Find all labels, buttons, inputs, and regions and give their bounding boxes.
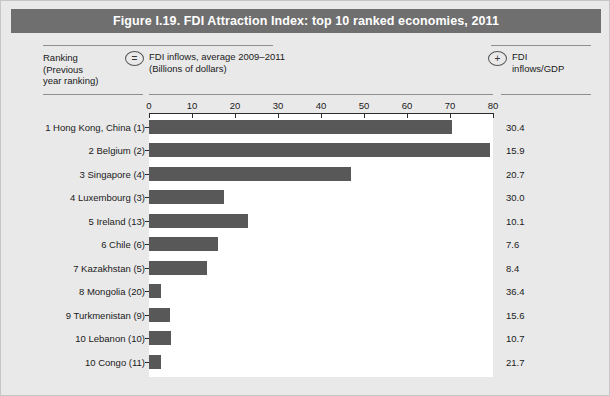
x-axis-tick-label: 30 <box>273 100 284 111</box>
x-axis-tick <box>364 114 365 118</box>
category-label: 6 Chile (6) <box>15 239 145 250</box>
gdp-value: 15.9 <box>506 145 525 156</box>
x-axis-tick-label: 80 <box>488 100 499 111</box>
category-label: 10 Lebanon (10) <box>15 333 145 344</box>
x-axis-tick-label: 10 <box>187 100 198 111</box>
plus-symbol-icon: + <box>488 51 507 66</box>
x-axis-tick-label: 40 <box>316 100 327 111</box>
x-axis-tick-label: 20 <box>230 100 241 111</box>
bar <box>149 167 351 181</box>
gdp-value: 20.7 <box>506 169 525 180</box>
x-axis-tick <box>450 114 451 118</box>
category-label: 8 Mongolia (20) <box>15 286 145 297</box>
x-axis-tick <box>407 114 408 118</box>
gdp-value: 10.7 <box>506 333 525 344</box>
x-axis-tick-label: 60 <box>402 100 413 111</box>
category-label: 9 Turkmenistan (9) <box>15 310 145 321</box>
fdi-inflows-legend-label: FDI inflows, average 2009–2011 (Billions… <box>149 51 399 75</box>
bar <box>149 308 170 322</box>
category-label: 5 Ireland (13) <box>15 216 145 227</box>
gdp-value: 30.0 <box>506 192 525 203</box>
gdp-value: 36.4 <box>506 286 525 297</box>
bar <box>149 190 224 204</box>
x-axis-tick-label: 70 <box>445 100 456 111</box>
category-label: 3 Singapore (4) <box>15 169 145 180</box>
fdi-gdp-legend-line1: FDI <box>512 51 592 63</box>
gdp-value: 21.7 <box>506 357 525 368</box>
x-axis-tick <box>235 114 236 118</box>
bar <box>149 331 171 345</box>
gdp-value: 7.6 <box>506 239 519 250</box>
fdi-inflows-legend-line1: FDI inflows, average 2009–2011 <box>149 51 399 63</box>
bar <box>149 355 161 369</box>
gdp-value: 15.6 <box>506 310 525 321</box>
gdp-value: 10.1 <box>506 216 525 227</box>
figure-container: Figure I.19. FDI Attraction Index: top 1… <box>0 0 610 396</box>
bar <box>149 143 490 157</box>
legend-rule-bottom-mid <box>149 94 493 95</box>
category-labels: 1 Hong Kong, China (1)2 Belgium (2)3 Sin… <box>9 1 145 396</box>
fdi-inflows-legend-line2: (Billions of dollars) <box>149 63 399 75</box>
category-label: 2 Belgium (2) <box>15 145 145 156</box>
x-axis-tick-label: 0 <box>146 100 151 111</box>
category-label: 4 Luxembourg (3) <box>15 192 145 203</box>
x-axis-tick <box>321 114 322 118</box>
x-axis-tick-label: 50 <box>359 100 370 111</box>
category-label: 7 Kazakhstan (5) <box>15 263 145 274</box>
x-axis-tick <box>192 114 193 118</box>
legend-rule-bottom-right <box>501 94 591 95</box>
fdi-gdp-legend-line2: inflows/GDP <box>512 63 592 75</box>
fdi-gdp-legend-label: FDI inflows/GDP <box>512 51 592 75</box>
legend-rule-top-right <box>491 45 591 46</box>
bar <box>149 214 248 228</box>
x-axis-tick <box>493 114 494 118</box>
x-axis-tick <box>278 114 279 118</box>
bar <box>149 237 218 251</box>
gdp-value: 30.4 <box>506 122 525 133</box>
category-label: 10 Congo (11) <box>15 357 145 368</box>
bar <box>149 284 161 298</box>
bar <box>149 261 207 275</box>
gdp-value: 8.4 <box>506 263 519 274</box>
x-axis-tick <box>149 114 150 118</box>
bar <box>149 120 452 134</box>
category-label: 1 Hong Kong, China (1) <box>15 122 145 133</box>
